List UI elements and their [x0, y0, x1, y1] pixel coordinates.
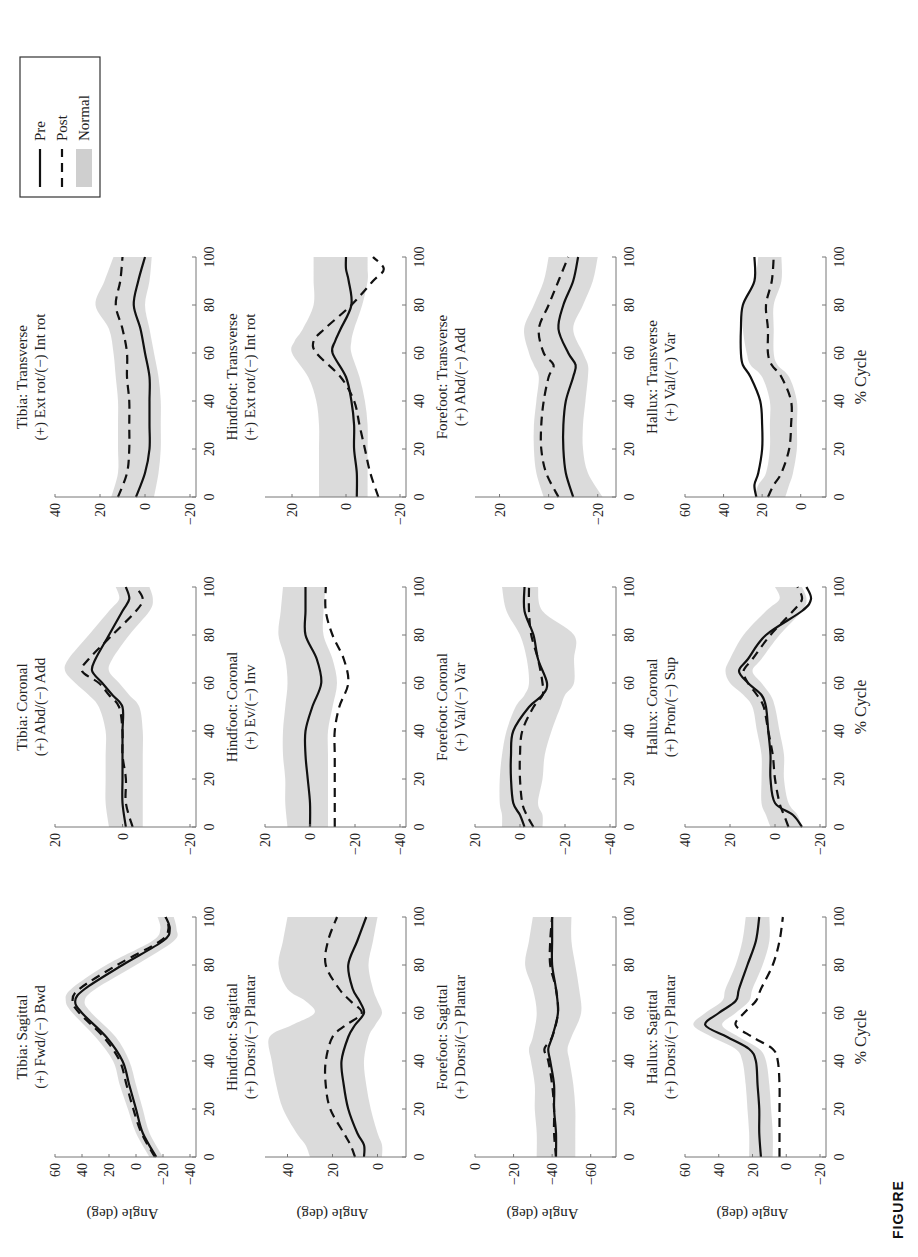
x-tick-label: 0 — [202, 494, 217, 501]
x-tick-label: 20 — [412, 442, 427, 456]
x-tick-label: 60 — [202, 346, 217, 360]
y-tick-label: −60 — [584, 1163, 599, 1185]
x-axis-label: % Cycle — [852, 680, 870, 735]
x-tick-label: 100 — [832, 577, 847, 598]
x-tick-label: 60 — [412, 1006, 427, 1020]
panel-subtitle: (+) Fwd/(−) Bwd — [32, 985, 49, 1089]
x-tick-label: 20 — [202, 1102, 217, 1116]
panel-title: Hindfoot: Coronal — [224, 652, 240, 762]
y-tick-label: 0 — [768, 833, 783, 840]
panel-forefoot-sagittal: Forefoot: Sagittal(+) Dorsi/(−) Plantar−… — [434, 907, 637, 1223]
y-tick-label: 60 — [678, 503, 693, 517]
x-tick-label: 0 — [412, 1154, 427, 1161]
x-tick-label: 60 — [832, 1006, 847, 1020]
legend-normal-swatch — [76, 149, 92, 187]
y-tick-label: 0 — [303, 833, 318, 840]
panel-forefoot-coronal: Forefoot: Coronal(+) Val/(−) Var−40−2002… — [434, 577, 637, 855]
y-axis-label: Angle (deg) — [716, 1205, 788, 1222]
x-tick-label: 100 — [202, 907, 217, 928]
panel-title: Hallux: Coronal — [644, 658, 660, 755]
y-tick-label: 20 — [326, 1163, 341, 1177]
y-tick-label: −20 — [183, 503, 198, 525]
panel-subtitle: (+) Val/(−) Var — [452, 663, 469, 752]
y-tick-label: −40 — [183, 1163, 198, 1185]
x-tick-label: 100 — [832, 907, 847, 928]
panel-tibia-coronal: Tibia: Coronal(+) Abd/(−) Add−2002002040… — [14, 577, 217, 855]
y-tick-label: 0 — [339, 503, 354, 510]
x-tick-label: 60 — [832, 346, 847, 360]
x-tick-label: 80 — [412, 298, 427, 312]
normal-band — [693, 917, 773, 1157]
x-tick-label: 0 — [412, 494, 427, 501]
y-tick-label: 20 — [755, 503, 770, 517]
normal-band — [65, 587, 153, 827]
x-tick-label: 0 — [622, 824, 637, 831]
panel-title: Tibia: Transverse — [14, 325, 30, 429]
panel-title: Hallux: Transverse — [644, 320, 660, 434]
panel-title: Hallux: Sagittal — [644, 990, 660, 1085]
x-tick-label: 20 — [622, 772, 637, 786]
panel-title: Forefoot: Coronal — [434, 653, 450, 761]
x-tick-label: 0 — [202, 824, 217, 831]
y-tick-label: 20 — [493, 503, 508, 517]
x-tick-label: 20 — [622, 1102, 637, 1116]
y-tick-label: 20 — [93, 503, 108, 517]
y-tick-label: 0 — [129, 1163, 144, 1170]
legend-label: Normal — [76, 95, 92, 141]
panel-hindfoot-coronal: Hindfoot: Coronal(+) Ev/(−) Inv−40−20020… — [224, 577, 427, 855]
x-tick-label: 20 — [832, 772, 847, 786]
y-tick-label: 0 — [468, 1163, 483, 1170]
x-axis-label: % Cycle — [852, 350, 870, 405]
y-tick-label: −20 — [558, 833, 573, 855]
panel-title: Hindfoot: Sagittal — [224, 983, 240, 1091]
x-tick-label: 80 — [412, 958, 427, 972]
y-tick-label: 40 — [678, 833, 693, 847]
y-tick-label: −40 — [603, 833, 618, 855]
x-tick-label: 80 — [622, 298, 637, 312]
x-tick-label: 60 — [412, 676, 427, 690]
x-tick-label: 80 — [622, 958, 637, 972]
panel-subtitle: (+) Ext rot/(−) Int rot — [242, 313, 259, 441]
panel-tibia-transverse: Tibia: Transverse(+) Ext rot/(−) Int rot… — [14, 247, 217, 525]
y-tick-label: 60 — [48, 1163, 63, 1177]
normal-band — [278, 587, 337, 827]
x-tick-label: 20 — [622, 442, 637, 456]
x-tick-label: 80 — [622, 628, 637, 642]
panel-subtitle: (+) Dorsi/(−) Plantar — [452, 975, 469, 1099]
x-tick-label: 60 — [202, 1006, 217, 1020]
y-tick-label: 20 — [48, 833, 63, 847]
y-axis-label: Angle (deg) — [506, 1205, 578, 1222]
x-tick-label: 20 — [832, 1102, 847, 1116]
figure-canvas: Tibia: Sagittal(+) Fwd/(−) Bwd−40−200204… — [0, 0, 918, 1257]
x-tick-label: 40 — [412, 394, 427, 408]
panel-hallux-sagittal: Hallux: Sagittal(+) Dorsi/(−) Plantar−20… — [644, 907, 870, 1223]
y-tick-label: 40 — [281, 1163, 296, 1177]
y-axis-label: Angle (deg) — [296, 1205, 368, 1222]
x-tick-label: 0 — [622, 1154, 637, 1161]
x-tick-label: 100 — [202, 577, 217, 598]
y-tick-label: 20 — [102, 1163, 117, 1177]
panel-subtitle: (+) Ext rot/(−) Int rot — [32, 313, 49, 441]
x-tick-label: 20 — [412, 772, 427, 786]
y-tick-label: 60 — [678, 1163, 693, 1177]
y-tick-label: −20 — [813, 833, 828, 855]
panel-subtitle: (+) Dorsi/(−) Plantar — [242, 975, 259, 1099]
x-tick-label: 40 — [202, 394, 217, 408]
x-tick-label: 40 — [622, 1054, 637, 1068]
x-tick-label: 40 — [832, 394, 847, 408]
panel-title: Hindfoot: Transverse — [224, 313, 240, 440]
x-tick-label: 80 — [202, 958, 217, 972]
x-tick-label: 60 — [202, 676, 217, 690]
x-tick-label: 60 — [412, 346, 427, 360]
x-tick-label: 0 — [202, 1154, 217, 1161]
panel-subtitle: (+) Val/(−) Var — [662, 333, 679, 422]
y-tick-label: 0 — [116, 833, 131, 840]
x-tick-label: 20 — [832, 442, 847, 456]
x-tick-label: 80 — [832, 628, 847, 642]
x-axis-label: % Cycle — [852, 1010, 870, 1065]
x-tick-label: 0 — [832, 494, 847, 501]
x-tick-label: 40 — [202, 1054, 217, 1068]
y-tick-label: −20 — [183, 833, 198, 855]
x-tick-label: 0 — [412, 824, 427, 831]
y-tick-label: 0 — [779, 1163, 794, 1170]
